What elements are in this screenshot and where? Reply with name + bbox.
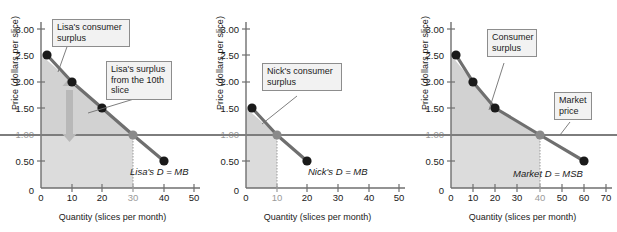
data-point	[490, 103, 499, 112]
nick-consumer-surplus-callout: Nick's consumer surplus	[262, 63, 342, 91]
surplus-region-lower	[451, 135, 540, 188]
x-tick-10: 10	[62, 192, 82, 203]
callout-leader	[58, 44, 68, 72]
x-tick-10: 10	[463, 192, 483, 203]
x-tick-10: 10	[267, 192, 287, 203]
x-tick-30: 30	[328, 192, 348, 203]
panel-market: Price (dollars per slice) 3.00 2.50 2.00…	[410, 0, 615, 232]
x-tick-30: 30	[507, 192, 527, 203]
lisa-tenth-slice-surplus-callout: Lisa's surplus from the 10th slice	[106, 61, 172, 100]
x-tick-30: 30	[123, 192, 143, 203]
x-axis-title: Quantity (slices per month)	[225, 212, 410, 222]
surplus-region-lower	[246, 135, 277, 188]
curve-label-nick: Nick's D = MB	[308, 166, 368, 177]
panel-lisa: Price (dollars per slice) 3.00 2.50 2.00…	[0, 0, 205, 232]
panel-nick: Price (dollars per slice) 3.00 2.50 2.00…	[205, 0, 410, 232]
x-tick-0: 0	[31, 192, 51, 203]
market-consumer-surplus-callout: Consumer surplus	[487, 29, 537, 57]
x-tick-20: 20	[92, 192, 112, 203]
curve-label-market: Market D = MSB	[513, 168, 583, 179]
data-point	[451, 50, 460, 59]
x-axis-title: Quantity (slices per month)	[20, 212, 205, 222]
x-tick-60: 60	[574, 192, 594, 203]
data-point	[247, 103, 256, 112]
data-point	[302, 156, 311, 165]
x-tick-40: 40	[359, 192, 379, 203]
x-tick-0: 0	[236, 192, 256, 203]
x-tick-50: 50	[389, 192, 409, 203]
data-point	[67, 77, 76, 86]
data-point	[579, 156, 588, 165]
lisa-consumer-surplus-callout: Lisa's consumer surplus	[52, 19, 130, 47]
x-axis-title: Quantity (slices per month)	[430, 212, 615, 222]
x-tick-70: 70	[596, 192, 616, 203]
data-point	[468, 77, 477, 86]
market-price-callout: Market price	[554, 92, 592, 120]
callout-leader	[560, 122, 570, 135]
callout-leader	[489, 63, 504, 110]
curve-label-lisa: Lisa's D = MB	[130, 166, 189, 177]
x-tick-50: 50	[552, 192, 572, 203]
data-point-equilibrium	[272, 130, 281, 139]
data-point	[42, 50, 51, 59]
data-point-equilibrium	[535, 130, 544, 139]
x-tick-50: 50	[184, 192, 204, 203]
callout-leader	[262, 96, 297, 124]
x-tick-40: 40	[154, 192, 174, 203]
data-point	[159, 156, 168, 165]
consumer-surplus-figure: Price (dollars per slice) 3.00 2.50 2.00…	[0, 0, 617, 232]
x-tick-0: 0	[441, 192, 461, 203]
data-point-equilibrium	[128, 130, 137, 139]
x-tick-40: 40	[530, 192, 550, 203]
x-tick-20: 20	[485, 192, 505, 203]
x-tick-20: 20	[297, 192, 317, 203]
